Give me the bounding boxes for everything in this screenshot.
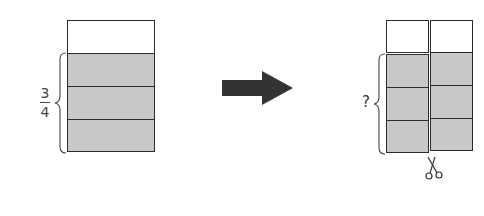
fraction-bar: [40, 102, 50, 103]
fraction-denominator: 4: [41, 105, 50, 119]
question-label: ?: [360, 93, 372, 111]
col2-unshaded-part: [430, 20, 473, 53]
fraction-numerator: 3: [41, 86, 50, 100]
scissors-icon: [422, 155, 446, 181]
col1-shaded-part-2: [386, 87, 429, 121]
fraction-label: 3 4: [40, 86, 50, 119]
col1-shaded-part-1: [386, 54, 429, 88]
col2-shaded-part-2: [430, 85, 473, 119]
col2-shaded-part-3: [430, 118, 473, 151]
right-arrow-icon: [220, 70, 295, 106]
col1-unshaded-part: [386, 20, 429, 53]
left-shaded-part-1: [67, 53, 155, 87]
left-brace-icon: [54, 52, 68, 154]
col2-shaded-part-1: [430, 52, 473, 86]
right-brace-icon: [373, 53, 387, 155]
col1-shaded-part-3: [386, 120, 429, 153]
left-shaded-part-3: [67, 119, 155, 152]
left-unshaded-part: [67, 20, 155, 54]
left-shaded-part-2: [67, 86, 155, 120]
